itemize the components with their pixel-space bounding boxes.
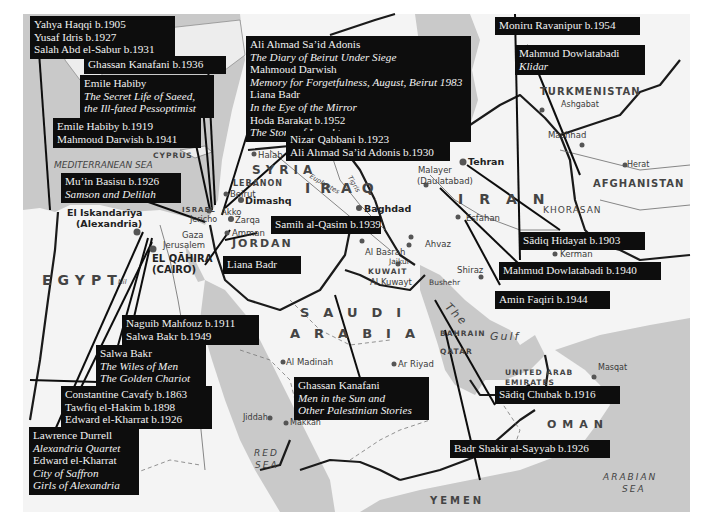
author-label-dowlatabadi-1940: Mahmud Dowlatabadi b.1940 — [499, 262, 661, 280]
city-alexandria-2: (Alexandria) — [76, 219, 142, 229]
city-esfahan: Esfahan — [466, 213, 500, 223]
country-cyprus: CYPRUS — [153, 151, 193, 160]
city-gaza: Gaza — [182, 230, 203, 240]
label-line: Salwa Bakr — [100, 347, 202, 360]
label-line: Tawfiq el-Hakim b.1898 — [65, 401, 208, 414]
author-label-qabbani-adonis: Nizar Qabbani b.1923 Ali Ahmad Sa’id Ado… — [286, 131, 450, 161]
city-baghdad: Baghdad — [364, 204, 411, 214]
label-line: Emile Habiby — [84, 77, 210, 90]
label-line: Girls of Alexandria — [33, 479, 135, 492]
country-oman: OMAN — [547, 418, 609, 431]
author-label-faqiri: Amin Faqiri b.1944 — [495, 291, 610, 309]
label-line: Memory for Forgetfulness, August, Beirut… — [250, 76, 467, 89]
author-label-haqqi-idris-sabur: Yahya Haqqi b.1905 Yusaf Idris b.1927 Sa… — [30, 16, 175, 59]
author-label-cavafy-hakim-kharrat: Constantine Cavafy b.1863 Tawfiq el-Haki… — [61, 386, 212, 429]
country-qatar: QATAR — [440, 347, 473, 356]
sea-red-1: RED — [254, 448, 279, 458]
label-line: Edward el-Kharrat — [33, 454, 135, 467]
label-line: Klidar — [519, 60, 641, 73]
city-jaikur: Jaikur — [389, 257, 410, 267]
author-label-dowlatabadi-klidar: Mahmud Dowlatabadi Klidar — [515, 45, 645, 75]
city-jerusalem: Jerusalem — [163, 240, 205, 250]
country-syria: SYRIA — [252, 163, 317, 177]
label-line: Nizar Qabbani b.1923 — [290, 133, 446, 146]
label-line: Mu’in Basisu b.1926 — [65, 175, 177, 188]
author-label-kanafani-men-sun: Ghassan Kanafani Men in the Sun and Othe… — [294, 377, 429, 420]
label-line: The Wiles of Men — [100, 360, 202, 373]
city-masqat: Masqat — [598, 363, 627, 373]
city-dimashq: Dimashq — [245, 196, 292, 206]
label-line: Mahmud Dowlatabadi b.1940 — [503, 264, 657, 277]
author-label-habiby-darwish: Emile Habiby b.1919 Mahmoud Darwish b.19… — [53, 118, 201, 148]
label-line: the Ill-fated Pessoptimist — [84, 102, 210, 115]
label-line: Badr Shakir al-Sayyab b.1926 — [454, 442, 606, 455]
country-saudi-2: ARABIA — [290, 326, 429, 341]
label-line: Mahmoud Darwish — [250, 63, 467, 76]
author-label-bakr-works: Salwa Bakr The Wiles of Men The Golden C… — [96, 345, 206, 388]
city-tehran: Tehran — [468, 157, 504, 167]
city-ar-riyad: Ar Riyad — [398, 359, 434, 369]
label-line: City of Saffron — [33, 467, 135, 480]
sea-arabian-1: ARABIAN — [603, 472, 657, 482]
author-label-mahfouz-bakr: Naguib Mahfouz b.1911 Salwa Bakr b.1949 — [122, 315, 259, 345]
city-al-basrah: Al Basrah — [365, 247, 405, 257]
sea-red-2: SEA — [255, 460, 279, 470]
river-nil: Nil — [118, 278, 126, 286]
label-line: Yahya Haqqi b.1905 — [34, 18, 171, 31]
country-bahrain: BAHRAIN — [440, 329, 485, 338]
country-lebanon: LEBANON — [233, 179, 283, 188]
country-turkmenistan: TURKMENISTAN — [540, 86, 641, 97]
label-line: The Diary of Beirut Under Siege — [250, 51, 467, 64]
label-line: Sādiq Hidayat b.1903 — [523, 234, 641, 247]
city-cairo-2: (CAIRO) — [152, 265, 196, 275]
region-khorasan: KHORASAN — [543, 205, 602, 215]
city-al-madinah: Al Madinah — [286, 357, 333, 367]
author-label-kanafani-1936: Ghassan Kanafani b.1936 — [84, 56, 226, 74]
label-line: Lawrence Durrell — [33, 429, 135, 442]
country-yemen: YEMEN — [430, 495, 484, 506]
country-saudi-1: SAUDI — [300, 305, 415, 320]
label-line: Samih al-Qasim b.1939 — [275, 218, 377, 231]
label-line: The Secret Life of Saeed, — [84, 90, 210, 103]
label-line: Yusaf Idris b.1927 — [34, 31, 171, 44]
label-line: Constantine Cavafy b.1863 — [65, 388, 208, 401]
label-line: The Golden Chariot — [100, 372, 202, 385]
label-line: Emile Habiby b.1919 — [57, 120, 197, 133]
country-kuwait: KUWAIT — [368, 267, 407, 276]
city-malayer-1: Malayer — [418, 165, 452, 175]
label-line: Liana Badr — [227, 258, 297, 271]
label-line: Ali Ahmad Sa’id Adonis b.1930 — [290, 146, 446, 159]
label-line: Mahmud Dowlatabadi — [519, 47, 641, 60]
sea-mediterranean: MEDITERRANEAN SEA — [54, 160, 153, 170]
label-line: Salwa Bakr b.1949 — [126, 330, 255, 343]
label-line: Liana Badr — [250, 88, 467, 101]
city-malayer-2: (Daulatabad) — [417, 176, 473, 186]
city-shiraz: Shiraz — [457, 265, 483, 275]
city-al-kuwayt: Al Kuwayt — [370, 277, 412, 287]
author-label-samih: Samih al-Qasim b.1939 — [271, 216, 381, 234]
author-label-durrell-kharrat: Lawrence Durrell Alexandria Quartet Edwa… — [29, 427, 139, 495]
city-amman: Amman — [232, 228, 265, 238]
city-jiddah: Jiddah — [243, 413, 268, 423]
label-line: Ghassan Kanafani — [298, 379, 425, 392]
country-afghanistan: AFGHANISTAN — [593, 178, 684, 189]
city-bushehr: Bushehr — [429, 278, 460, 288]
label-line: Salah Abd el-Sabur b.1931 — [34, 43, 171, 56]
label-line: Ali Ahmad Sa’id Adonis — [250, 38, 467, 51]
label-line: Ghassan Kanafani b.1936 — [88, 58, 222, 71]
label-line: Moniru Ravanipur b.1954 — [499, 19, 636, 32]
city-ashgabat: Ashgabat — [561, 100, 599, 110]
city-halab: Halab — [258, 150, 283, 160]
author-label-beirut-works: Ali Ahmad Sa’id Adonis The Diary of Beir… — [246, 36, 471, 142]
author-label-basisu: Mu’in Basisu b.1926 Samson and Delilah — [61, 173, 181, 203]
label-line: Alexandria Quartet — [33, 442, 135, 455]
label-line: Amin Faqiri b.1944 — [499, 293, 606, 306]
country-uae-1: UNITED ARAB — [505, 368, 573, 377]
label-line: Samson and Delilah — [65, 188, 177, 201]
city-jericho: Jericho — [190, 215, 217, 225]
author-label-hidayat: Sādiq Hidayat b.1903 — [519, 232, 645, 250]
label-line: Naguib Mahfouz b.1911 — [126, 317, 255, 330]
city-alexandria-1: El Iskandarīya — [67, 208, 143, 218]
city-cairo-1: EL QĀHIRA — [152, 254, 212, 264]
author-label-ravanipur: Moniru Ravanipur b.1954 — [495, 17, 640, 35]
